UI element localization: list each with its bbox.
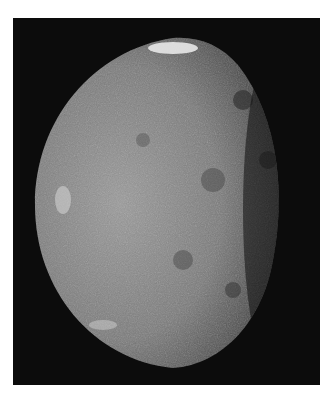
photo-frame <box>13 18 320 385</box>
moon-image <box>23 30 313 370</box>
